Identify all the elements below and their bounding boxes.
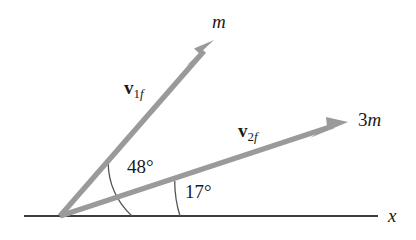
angle-label-17: 17° [185,182,212,201]
diagram-canvas [0,0,416,240]
vector-v2f-arrowhead [310,117,348,138]
vector-label-v2f: v2f [238,121,258,143]
vector-label-v1f-subscript-letter: f [140,86,144,101]
angle-arc-17 [175,181,180,216]
vector-label-v1f: v1f [124,78,144,100]
mass-label-m: m [212,12,226,31]
mass-label-3m: 3m [358,110,381,129]
vector-label-v2f-subscript-letter: f [254,129,258,144]
vector-label-v2f-symbol: v [238,120,248,141]
vector-v1f-arrowhead [186,40,214,66]
mass-label-m-symbol: m [212,11,226,32]
mass-label-3m-coefficient: 3 [358,109,368,130]
vector-label-v2f-subscript: 2f [248,129,258,144]
mass-label-3m-symbol: m [368,109,382,130]
vector-label-v1f-subscript: 1f [134,86,144,101]
vector-diagram-figure: m 3m v1f v2f 48° 17° x [0,0,416,240]
vector-label-v1f-symbol: v [124,77,134,98]
x-axis-label: x [388,206,396,225]
angle-label-48: 48° [127,157,154,176]
